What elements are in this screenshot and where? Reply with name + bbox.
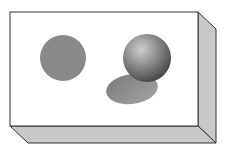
flat-disc bbox=[40, 35, 86, 81]
box-side-face bbox=[198, 12, 216, 143]
box-diagram bbox=[0, 0, 228, 153]
box-bottom-face bbox=[10, 126, 216, 143]
shaded-sphere bbox=[123, 34, 171, 82]
box-front-face bbox=[10, 12, 198, 126]
